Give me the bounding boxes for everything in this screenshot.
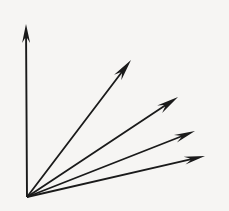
arrow-canvas: [0, 0, 229, 211]
canvas-background: [0, 0, 229, 211]
vector-diagram: [0, 0, 229, 211]
